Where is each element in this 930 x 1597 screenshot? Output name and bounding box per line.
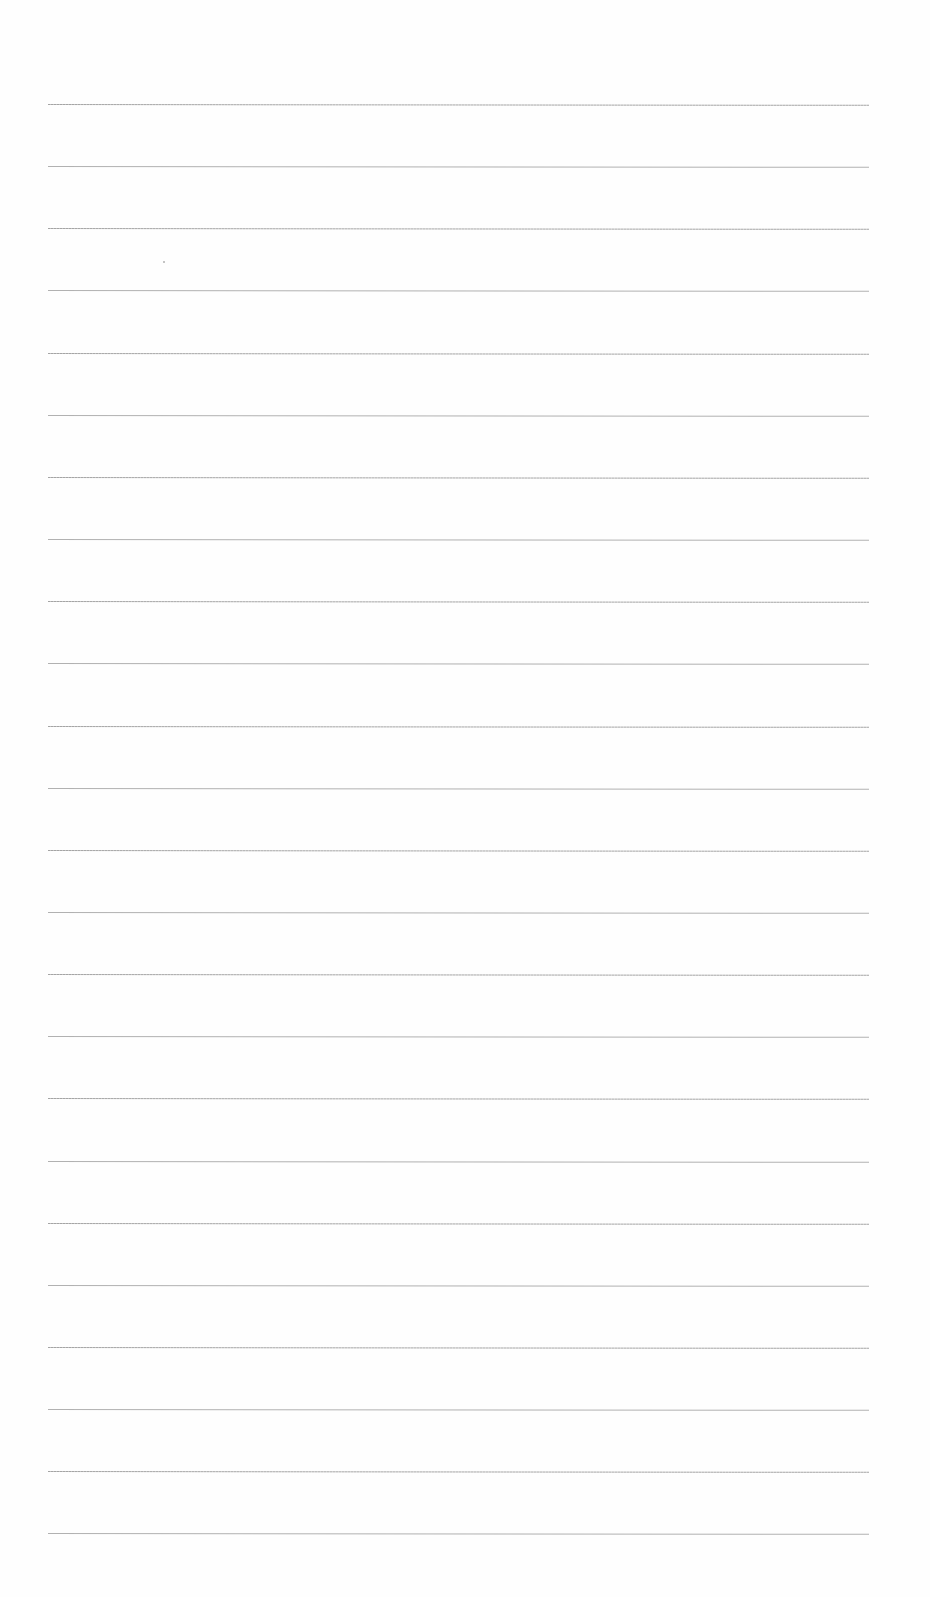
ruled-line — [48, 415, 869, 417]
ruled-line — [48, 726, 869, 728]
ruled-line — [48, 228, 869, 230]
ruled-line — [48, 1036, 869, 1038]
ruled-line — [48, 1161, 869, 1163]
ruled-line — [48, 539, 869, 541]
ruled-line — [48, 601, 869, 603]
ruled-line — [48, 1223, 869, 1225]
ruled-line — [48, 1533, 869, 1535]
ruled-line — [48, 104, 869, 106]
ruled-line — [48, 912, 869, 914]
ruled-line — [48, 663, 869, 665]
lined-paper-page — [0, 0, 930, 1597]
scan-speck — [163, 261, 165, 263]
ruled-line — [48, 290, 869, 292]
ruled-line — [48, 353, 869, 355]
ruled-line — [48, 477, 869, 479]
ruled-line — [48, 850, 869, 852]
ruled-line — [48, 1285, 869, 1287]
ruled-line — [48, 788, 869, 790]
ruled-line — [48, 1409, 869, 1411]
ruled-line — [48, 1471, 869, 1473]
ruled-line — [48, 974, 869, 976]
ruled-line — [48, 166, 869, 168]
ruled-line — [48, 1347, 869, 1349]
ruled-line — [48, 1098, 869, 1100]
